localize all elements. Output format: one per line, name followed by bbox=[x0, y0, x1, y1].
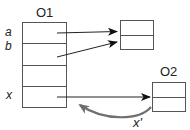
object-o1-label: O1 bbox=[36, 6, 53, 19]
field-label-a: a bbox=[5, 26, 12, 38]
edge-label-x-prime: x' bbox=[133, 116, 142, 129]
object-o2-box bbox=[153, 83, 186, 112]
field-label-x: x bbox=[6, 89, 12, 101]
object-o2-label: O2 bbox=[160, 65, 177, 78]
object-o1-box bbox=[23, 23, 67, 108]
field-label-b: b bbox=[5, 40, 12, 52]
target-object-box bbox=[121, 21, 154, 50]
